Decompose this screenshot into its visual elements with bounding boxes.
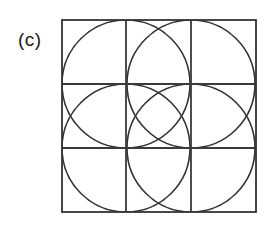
figure-panel: (c)	[0, 0, 275, 231]
circles-group	[62, 20, 255, 212]
outer-square-border	[62, 20, 256, 212]
grid-lines-group	[62, 20, 256, 212]
geometric-figure	[0, 0, 275, 231]
